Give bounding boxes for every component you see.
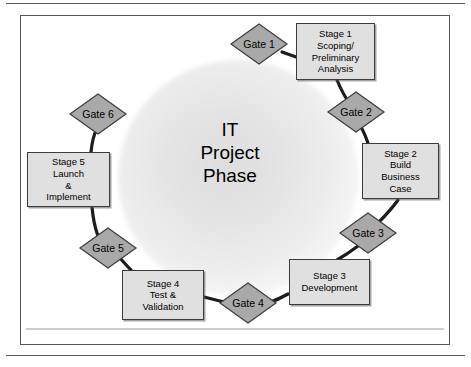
gate-6-label: Gate 6 xyxy=(82,108,114,120)
stage-2-label: Stage 2 Build Business Case xyxy=(381,148,420,194)
gate-4-label: Gate 4 xyxy=(232,297,264,309)
diagram-canvas: Stage 1 Scoping/ Preliminary Analysis St… xyxy=(0,0,471,367)
gate-5-label: Gate 5 xyxy=(92,242,124,254)
gate-3-label: Gate 3 xyxy=(352,227,384,239)
page-rule-bottom xyxy=(6,355,465,356)
gate-diamond-6[interactable]: Gate 6 xyxy=(68,92,128,136)
frame-inner-rule xyxy=(26,328,444,330)
stage-3-label: Stage 3 Development xyxy=(302,270,358,293)
center-title: IT Project Phase xyxy=(160,118,300,187)
stage-box-2[interactable]: Stage 2 Build Business Case xyxy=(362,143,439,199)
gate-diamond-4[interactable]: Gate 4 xyxy=(218,281,278,325)
gate-1-label: Gate 1 xyxy=(243,38,275,50)
gate-diamond-2[interactable]: Gate 2 xyxy=(326,90,386,134)
stage-1-label: Stage 1 Scoping/ Preliminary Analysis xyxy=(312,28,360,74)
gate-diamond-3[interactable]: Gate 3 xyxy=(338,211,398,255)
stage-box-5[interactable]: Stage 5 Launch & Implement xyxy=(27,152,110,207)
stage-5-label: Stage 5 Launch & Implement xyxy=(46,156,90,202)
gate-2-label: Gate 2 xyxy=(340,106,372,118)
stage-box-4[interactable]: Stage 4 Test & Validation xyxy=(122,270,204,320)
stage-box-3[interactable]: Stage 3 Development xyxy=(289,259,370,305)
gate-diamond-1[interactable]: Gate 1 xyxy=(229,22,289,66)
gate-diamond-5[interactable]: Gate 5 xyxy=(78,226,138,270)
stage-box-1[interactable]: Stage 1 Scoping/ Preliminary Analysis xyxy=(296,23,375,80)
stage-4-label: Stage 4 Test & Validation xyxy=(142,278,183,313)
